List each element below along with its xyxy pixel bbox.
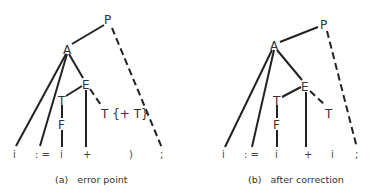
node-t-inserted: T	[324, 107, 333, 121]
token-assign: : =	[35, 149, 50, 160]
node-a: A	[63, 43, 72, 57]
token-i: i	[275, 149, 278, 160]
token-i-inserted: i	[331, 149, 334, 160]
node-e: E	[301, 80, 309, 94]
node-p: P	[320, 18, 327, 32]
token-i: i	[222, 149, 225, 160]
token-assign: : =	[244, 149, 259, 160]
caption-b: (b) after correction	[248, 174, 344, 185]
panel-a-error-point: P A E T F T {+ T} i : = i + ) ; (a) erro…	[13, 13, 163, 185]
node-a: A	[270, 39, 279, 53]
node-t: T	[272, 94, 281, 108]
edge-p-a	[280, 27, 318, 42]
caption-a: (a) error point	[55, 174, 128, 185]
node-p: P	[104, 13, 111, 27]
edge-e-t	[282, 87, 301, 97]
token-semicolon: ;	[355, 149, 358, 160]
token-semicolon: ;	[160, 149, 163, 160]
token-i: i	[60, 149, 63, 160]
node-f: F	[58, 118, 65, 132]
edge-e-t2-dashed	[90, 89, 101, 105]
edge-a-assign	[252, 50, 274, 147]
token-i: i	[13, 149, 16, 160]
token-plus: +	[83, 149, 91, 160]
edge-a-e	[277, 50, 302, 80]
edge-a-e	[69, 54, 83, 78]
node-e: E	[82, 78, 90, 92]
node-t-repeat: T {+ T}	[100, 107, 149, 121]
edge-e-t	[66, 86, 82, 96]
node-t: T	[57, 94, 66, 108]
edge-a-i	[225, 50, 272, 147]
edge-p-semicolon-dashed	[112, 28, 162, 148]
parse-tree-figure: P A E T F T {+ T} i : = i + ) ; (a) erro…	[0, 0, 370, 193]
token-plus: +	[304, 149, 312, 160]
token-rparen: )	[129, 149, 133, 160]
edge-p-semicolon-dashed	[327, 31, 357, 148]
edge-p-a	[72, 25, 104, 44]
edge-e-t2-dashed	[310, 91, 326, 106]
panel-b-after-correction: P A E T F T i : = i + i ; (b) after corr…	[222, 18, 358, 185]
node-f: F	[273, 118, 280, 132]
